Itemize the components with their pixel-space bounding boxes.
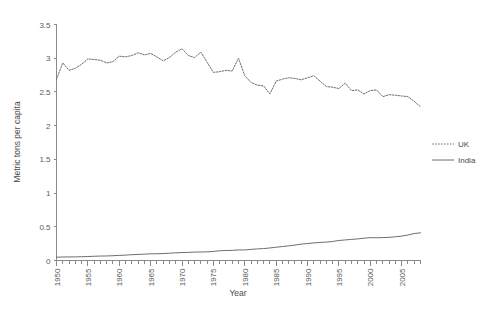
x-axis-title: Year <box>229 288 246 298</box>
line-chart: 00.511.522.533.5 19501955196019651970197… <box>0 0 487 309</box>
y-tick-label: 1.5 <box>39 155 51 164</box>
x-tick-label: 1970 <box>178 268 187 286</box>
series-lines <box>57 49 421 257</box>
x-tick-label: 2000 <box>366 268 375 286</box>
chart-container: 00.511.522.533.5 19501955196019651970197… <box>0 0 487 309</box>
y-tick-label: 0 <box>46 257 51 266</box>
chart-legend: UKIndia <box>432 140 476 165</box>
y-axis: 00.511.522.533.5 <box>39 21 56 266</box>
y-tick-label: 2.5 <box>39 88 51 97</box>
x-tick-label: 1975 <box>209 268 218 286</box>
x-tick-label: 1965 <box>147 268 156 286</box>
y-tick-label: 2 <box>46 122 51 131</box>
series-line-india <box>57 233 421 257</box>
x-tick-label: 1990 <box>304 268 313 286</box>
x-tick-label: 2005 <box>398 268 407 286</box>
y-axis-title: Metric tons per capita <box>12 101 22 183</box>
series-line-uk <box>57 49 421 107</box>
legend-label-india: India <box>458 156 476 165</box>
y-tick-label: 3 <box>46 54 51 63</box>
x-axis: 1950195519601965197019751980198519901995… <box>53 261 421 287</box>
x-tick-label: 1950 <box>53 268 62 286</box>
y-tick-label: 1 <box>46 189 51 198</box>
x-tick-label: 1980 <box>241 268 250 286</box>
x-tick-label: 1960 <box>115 268 124 286</box>
y-tick-label: 0.5 <box>39 223 51 232</box>
x-tick-label: 1985 <box>272 268 281 286</box>
y-tick-label: 3.5 <box>39 21 51 30</box>
legend-label-uk: UK <box>458 140 470 149</box>
x-tick-label: 1995 <box>335 268 344 286</box>
x-tick-label: 1955 <box>84 268 93 286</box>
